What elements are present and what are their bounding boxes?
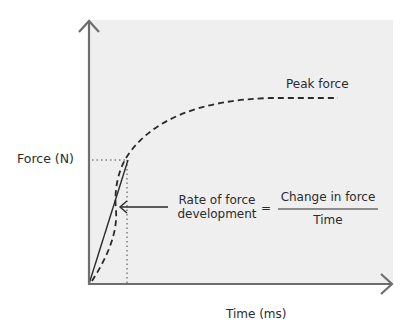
plot-area (90, 20, 393, 284)
fraction-numerator: Change in force (276, 190, 380, 204)
rfd-label-line2: development (172, 207, 262, 221)
x-axis-label: Time (ms) (226, 307, 287, 321)
rfd-label-line1: Rate of force (172, 193, 262, 207)
peak-force-label: Peak force (286, 77, 349, 91)
y-axis-label: Force (N) (17, 152, 74, 166)
equals-sign: = (261, 201, 271, 215)
rfd-diagram (0, 0, 404, 333)
fraction-denominator: Time (276, 213, 380, 227)
rfd-label: Rate of force development (172, 193, 262, 221)
